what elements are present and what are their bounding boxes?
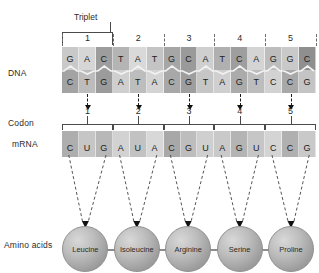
codon-bracket: [113, 124, 164, 130]
triplet-divider: [214, 34, 215, 46]
triplet-divider: [316, 34, 317, 46]
triplet-number: 5: [265, 33, 316, 43]
amino-acid-label: Proline: [279, 245, 302, 254]
mrna-base-cell: C: [62, 131, 79, 157]
triplet-number: 4: [214, 33, 265, 43]
translation-arrow-line: [221, 155, 236, 221]
mrna-base-cell: G: [231, 131, 248, 157]
amino-acid-sphere: Leucine: [62, 226, 108, 272]
mrna-base-cell: C: [282, 131, 299, 157]
triplet-number: 2: [113, 33, 164, 43]
triplet-label: Triplet: [74, 12, 97, 22]
dna-duplex: GACTATGCATCAGGC CTGATACGTAGTCCG: [62, 47, 316, 93]
codon-tick: [240, 116, 241, 124]
row-label-mrna: mRNA: [12, 139, 38, 149]
amino-acid-label: Serine: [229, 245, 251, 254]
translation-arrow-line: [294, 155, 309, 221]
triplet-divider: [62, 34, 63, 46]
codon-tick: [189, 116, 190, 124]
mrna-strand: CUGAUACGUAGUCCG: [62, 131, 316, 157]
codon-tick: [291, 116, 292, 124]
row-label-dna: DNA: [8, 68, 27, 78]
translation-arrow-line: [191, 155, 207, 221]
translation-arrows: [0, 155, 319, 230]
codon-bracket: [164, 124, 215, 130]
transcription-arrow: [87, 94, 88, 106]
transcription-arrow: [138, 94, 139, 106]
mrna-base-cell: G: [181, 131, 198, 157]
peptide-bond: [210, 249, 217, 251]
triplet-number: 1: [62, 33, 113, 43]
amino-acid-sphere: Serine: [217, 226, 263, 272]
mrna-base-cell: C: [164, 131, 181, 157]
translation-arrow-line: [88, 155, 106, 221]
triplet-number: 3: [164, 33, 215, 43]
amino-acid-sphere: Arginine: [165, 226, 211, 272]
peptide-bond: [159, 249, 166, 251]
translation-arrow-line: [272, 155, 288, 221]
mrna-base-cell: A: [147, 131, 164, 157]
mrna-base-cell: A: [214, 131, 231, 157]
translation-arrow-line: [140, 155, 157, 221]
translation-arrow-line: [170, 155, 185, 221]
mrna-base-cell: U: [197, 131, 214, 157]
translation-arrow-line: [120, 155, 134, 221]
mrna-base-cell: U: [248, 131, 265, 157]
row-label-amino-acids: Amino acids: [4, 240, 53, 250]
figure-canvas: DNA Codon mRNA Amino acids Triplet 12345…: [0, 0, 319, 273]
codon-number: 1: [62, 106, 113, 116]
codon-bracket: [214, 124, 265, 130]
amino-acid-label: Leucine: [72, 245, 98, 254]
amino-acid-label: Arginine: [174, 245, 202, 254]
translation-arrow-line: [69, 155, 83, 221]
codon-number: 3: [164, 106, 215, 116]
mrna-base-cell: C: [265, 131, 282, 157]
codon-bracket: [62, 124, 113, 130]
mrna-base-cell: U: [79, 131, 96, 157]
mrna-base-cell: A: [113, 131, 130, 157]
amino-acid-label: Isoleucine: [120, 245, 154, 254]
codon-tick: [87, 116, 88, 124]
triplet-leader-line: [110, 22, 111, 32]
peptide-bond: [107, 249, 114, 251]
transcription-arrow: [240, 94, 241, 106]
codon-tick: [138, 116, 139, 124]
transcription-arrow: [291, 94, 292, 106]
amino-acid-sphere: Isoleucine: [114, 226, 160, 272]
translation-arrow-line: [243, 155, 259, 221]
codon-number: 5: [265, 106, 316, 116]
mrna-base-cell: U: [130, 131, 147, 157]
base-pair-zigzag-icon: [62, 65, 316, 75]
triplet-divider: [113, 34, 114, 46]
triplet-divider: [265, 34, 266, 46]
triplet-divider: [164, 34, 165, 46]
mrna-base-cell: G: [299, 131, 316, 157]
peptide-bond: [262, 249, 269, 251]
codon-number: 2: [113, 106, 164, 116]
mrna-base-cell: G: [96, 131, 113, 157]
codon-number: 4: [214, 106, 265, 116]
codon-bracket: [265, 124, 316, 130]
amino-acid-sphere: Proline: [268, 226, 314, 272]
transcription-arrow: [189, 94, 190, 106]
row-label-codon: Codon: [8, 118, 34, 128]
